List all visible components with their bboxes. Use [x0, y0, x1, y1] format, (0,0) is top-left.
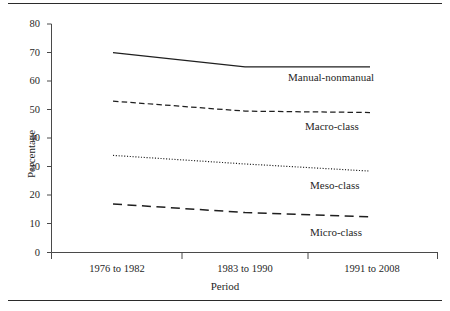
series-label-manual-nonmanual: Manual-nonmanual [288, 72, 374, 83]
series-label-micro-class: Micro-class [310, 227, 362, 238]
figure-container: 80 70 60 50 40 30 20 10 0 1976 to 1982 1… [0, 0, 450, 311]
x-axis-ticks [52, 253, 438, 260]
y-tick-label-20: 20 [14, 190, 40, 201]
y-tick-label-60: 60 [14, 76, 40, 87]
x-tick-label-period-1: 1976 to 1982 [62, 264, 172, 275]
y-tick-label-70: 70 [14, 48, 40, 59]
y-tick-label-80: 80 [14, 19, 40, 30]
x-axis-title: Period [0, 281, 450, 292]
series-label-meso-class: Meso-class [310, 180, 360, 191]
series-line-manual-nonmanual [113, 53, 370, 67]
series-line-meso-class [113, 155, 370, 171]
y-axis-title: Percentage [26, 130, 37, 178]
y-tick-label-10: 10 [14, 219, 40, 230]
y-tick-label-50: 50 [14, 105, 40, 116]
series-label-macro-class: Macro-class [305, 121, 359, 132]
x-tick-label-period-3: 1991 to 2008 [317, 264, 427, 275]
y-axis-ticks [47, 24, 52, 253]
x-tick-label-period-2: 1983 to 1990 [190, 264, 300, 275]
series-line-micro-class [113, 204, 370, 217]
series-line-macro-class [113, 101, 370, 112]
y-tick-label-0: 0 [14, 248, 40, 259]
